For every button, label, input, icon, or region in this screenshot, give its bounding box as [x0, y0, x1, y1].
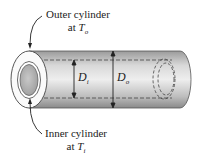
outer-cylinder-label: Outer cylinder at To [44, 8, 112, 39]
do-label: Do [117, 71, 129, 89]
outer-leader-arrow [30, 16, 42, 44]
inner-cylinder-core [20, 65, 38, 96]
di-label: Di [78, 71, 89, 89]
inner-cylinder-label: Inner cylinder at Ti [42, 127, 110, 156]
